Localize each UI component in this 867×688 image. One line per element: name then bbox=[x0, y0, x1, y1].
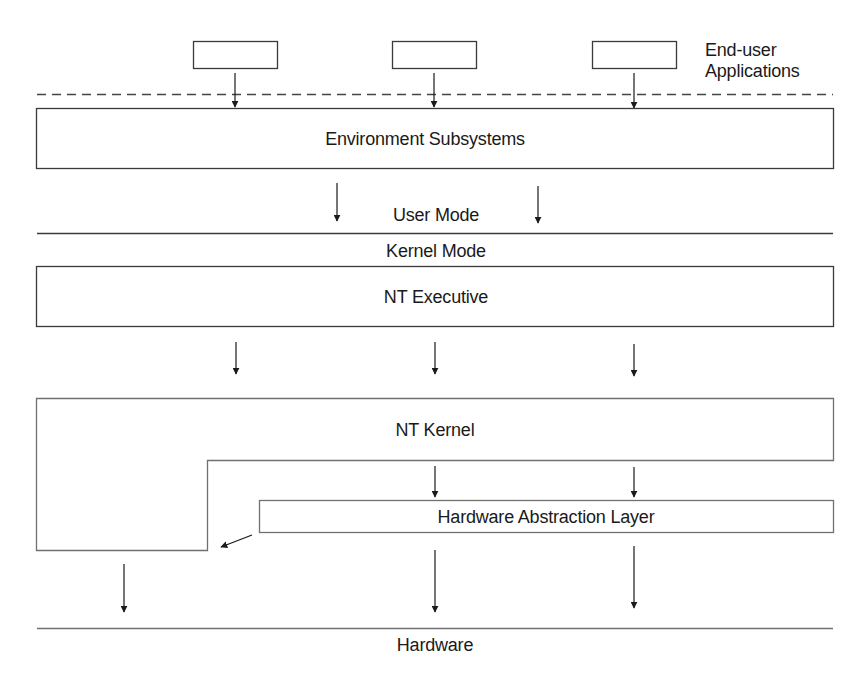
diagonal-arrow-icon bbox=[221, 535, 252, 547]
end-user-label-line1: End-user bbox=[705, 40, 800, 61]
environment-subsystems-label: Environment Subsystems bbox=[325, 130, 525, 148]
app-box-3 bbox=[593, 42, 677, 69]
app-box-1 bbox=[194, 42, 278, 69]
app-box-2 bbox=[393, 42, 477, 69]
hardware-label: Hardware bbox=[397, 636, 473, 654]
end-user-label-line2: Applications bbox=[705, 61, 800, 82]
user-mode-label: User Mode bbox=[393, 206, 479, 224]
app-arrows bbox=[235, 73, 634, 108]
app-boxes bbox=[194, 42, 677, 69]
nt-executive-label: NT Executive bbox=[384, 288, 488, 306]
kernel-mode-label: Kernel Mode bbox=[386, 242, 486, 260]
nt-kernel-label: NT Kernel bbox=[396, 421, 475, 439]
hal-label: Hardware Abstraction Layer bbox=[438, 508, 655, 526]
end-user-applications-label: End-user Applications bbox=[705, 40, 800, 82]
architecture-diagram bbox=[0, 0, 867, 688]
